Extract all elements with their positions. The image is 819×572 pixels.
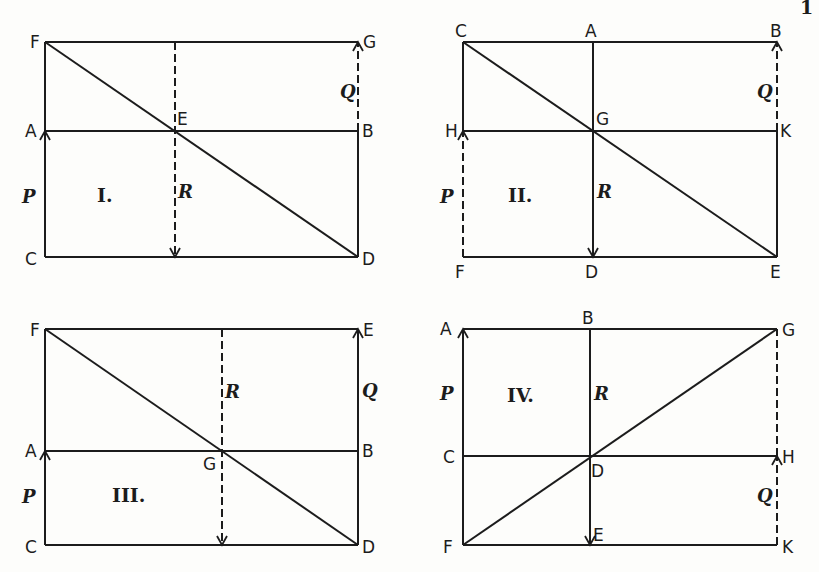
panel-III: FEAGBCDPQRIII.	[21, 320, 378, 557]
point-label: F	[30, 32, 40, 52]
point-label: B	[770, 21, 782, 41]
point-label: A	[25, 121, 37, 141]
panel-I: FGAEBCDPQRI.	[21, 32, 376, 269]
point-label: E	[593, 525, 604, 545]
panel-numeral: IV.	[507, 384, 534, 406]
force-label-r: R	[224, 381, 240, 402]
force-label-r: R	[596, 181, 612, 202]
point-label: A	[585, 21, 597, 41]
point-label: C	[25, 249, 37, 269]
point-label: B	[582, 308, 594, 328]
force-label-p: P	[439, 186, 454, 207]
point-label: K	[782, 537, 794, 557]
point-label: C	[25, 537, 37, 557]
point-label: B	[362, 121, 374, 141]
diagonal	[45, 42, 358, 257]
point-label: A	[440, 319, 452, 339]
force-label-r: R	[177, 181, 193, 202]
point-label: D	[585, 262, 598, 282]
parallelogram-of-forces-figure: FGAEBCDPQRI. CABHGKFDEPQRII. FEAGBCDPQRI…	[0, 0, 819, 572]
point-label: G	[363, 32, 376, 52]
point-label: F	[455, 262, 465, 282]
diagonal	[463, 42, 777, 257]
point-label: E	[363, 320, 374, 340]
point-label: E	[177, 109, 188, 129]
diagonal	[45, 329, 358, 545]
panel-numeral: III.	[112, 484, 145, 506]
point-label: E	[770, 262, 781, 282]
point-label: G	[203, 454, 216, 474]
panel-II: CABHGKFDEPQRII.	[439, 21, 792, 282]
point-label: G	[596, 109, 609, 129]
force-label-p: P	[21, 486, 36, 507]
panel-IV: ABGCDHFEKPQRIV.	[439, 308, 795, 557]
point-label: H	[782, 447, 795, 467]
page-corner-mark: 1	[800, 0, 813, 18]
force-label-q: Q	[757, 485, 773, 506]
force-label-p: P	[21, 186, 36, 207]
panel-numeral: I.	[97, 184, 113, 206]
point-label: B	[362, 441, 374, 461]
force-label-q: Q	[757, 81, 773, 102]
force-label-p: P	[439, 383, 454, 404]
force-label-q: Q	[362, 380, 378, 401]
diagonal	[463, 329, 777, 545]
point-label: D	[362, 537, 375, 557]
point-label: F	[443, 537, 453, 557]
point-label: G	[782, 320, 795, 340]
force-label-r: R	[593, 383, 609, 404]
point-label: D	[362, 249, 375, 269]
panel-numeral: II.	[508, 184, 532, 206]
force-label-q: Q	[340, 81, 356, 102]
point-label: K	[780, 121, 792, 141]
point-label: C	[443, 447, 455, 467]
point-label: C	[455, 21, 467, 41]
point-label: F	[30, 320, 40, 340]
point-label: D	[591, 461, 604, 481]
point-label: H	[445, 121, 458, 141]
point-label: A	[25, 441, 37, 461]
